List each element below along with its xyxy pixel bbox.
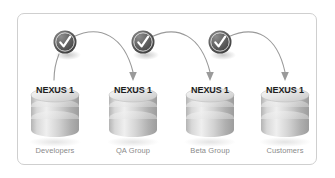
node-label-customers: Customers: [245, 146, 325, 156]
nexus-label-customers: NEXUS 1: [245, 85, 325, 95]
diagram-root: NEXUS 1 NEXUS 1 NEXUS 1 NEXUS 1 Develope…: [0, 0, 335, 178]
arrowhead-beta: [206, 72, 214, 81]
database-cylinder-developers[interactable]: [29, 88, 81, 147]
nexus-label-qa-group: NEXUS 1: [93, 85, 173, 95]
nexus-label-developers: NEXUS 1: [15, 85, 95, 95]
connector-qa-to-beta: [151, 32, 210, 72]
node-label-beta-group: Beta Group: [170, 146, 250, 156]
arrowhead-customers: [281, 72, 289, 81]
nexus-label-beta-group: NEXUS 1: [170, 85, 250, 95]
database-cylinder-customers[interactable]: [259, 88, 311, 147]
node-label-developers: Developers: [15, 146, 95, 156]
connector-beta-to-customers: [228, 32, 285, 72]
connector-group: [54, 32, 289, 81]
arrowhead-qa: [129, 72, 137, 81]
database-cylinder-qa-group[interactable]: [107, 88, 159, 147]
connector-developers-to-qa: [73, 32, 133, 72]
node-label-qa-group: QA Group: [93, 146, 173, 156]
database-cylinder-beta-group[interactable]: [184, 88, 236, 147]
